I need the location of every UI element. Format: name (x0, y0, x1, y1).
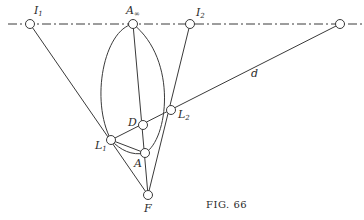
label-I1: I1 (33, 4, 43, 18)
label-L2: L2 (177, 108, 190, 122)
label-A-infinity: A∞ (125, 4, 140, 18)
label-A: A (133, 157, 142, 170)
figure-66: I1 A∞ I2 L2 D L1 A F d FIG. 66 (0, 0, 364, 220)
label-L1: L1 (94, 139, 107, 153)
diagram-canvas: I1 A∞ I2 L2 D L1 A F d FIG. 66 (0, 0, 364, 220)
line-I1-F (30, 24, 148, 195)
point-right-vanishing (336, 20, 345, 29)
label-I2: I2 (195, 6, 205, 20)
point-L1 (107, 136, 116, 145)
ellipse-curve (101, 24, 165, 154)
figure-caption: FIG. 66 (206, 199, 247, 210)
point-L2 (167, 106, 176, 115)
label-d: d (251, 67, 258, 80)
point-I1 (26, 20, 35, 29)
label-D: D (127, 116, 137, 129)
point-A-infinity (129, 20, 138, 29)
line-L1-A (111, 140, 145, 153)
label-F: F (143, 202, 152, 215)
point-F (144, 191, 153, 200)
point-D (139, 121, 148, 130)
point-I2 (186, 20, 195, 29)
